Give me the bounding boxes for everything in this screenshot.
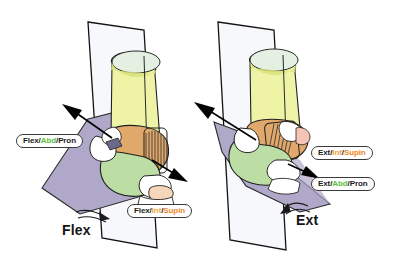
axis-arrow-head-right-upper [194,102,215,119]
label-flex-abd-pron-seg-1: Abd [41,136,56,145]
label-ext-int-supin-seg-0: Ext [318,148,330,157]
label-flex-abd-pron: Flex / Abd / Pron [16,134,83,148]
label-ext-int-supin: Ext / Int / Supin [311,146,373,160]
label-ext-abd-pron: Ext / Abd / Pron [311,177,375,191]
label-flex-abd-pron-seg-2: Pron [58,136,76,145]
tibia-cap-left [112,51,160,73]
axis-arrow-head-left-lower [168,168,188,182]
ligament-right-distal [268,178,300,194]
flexion-caption: Flex [62,222,91,238]
extension-caption: Ext [296,212,318,228]
label-flex-abd-pron-seg-0: Flex [23,136,39,145]
ligament-right-pink [296,127,310,144]
label-flex-int-supin-seg-2: Supin [163,206,185,215]
label-ext-int-supin-seg-1: Int [332,148,341,157]
tibia-cap-right [250,49,298,71]
axis-arrow-head-left-upper [62,104,82,120]
label-flex-int-supin-seg-0: Flex [134,206,150,215]
label-ext-abd-pron-seg-0: Ext [318,179,330,188]
label-flex-int-supin: Flex / Int / Supin [127,204,192,218]
label-flex-int-supin-seg-1: Int [152,206,161,215]
label-ext-abd-pron-seg-1: Abd [332,179,347,188]
label-ext-abd-pron-seg-2: Pron [350,179,368,188]
figure-canvas: Flex / Abd / Pron Flex / Int / Supin Ext… [0,0,395,271]
label-ext-int-supin-seg-2: Supin [344,148,366,157]
